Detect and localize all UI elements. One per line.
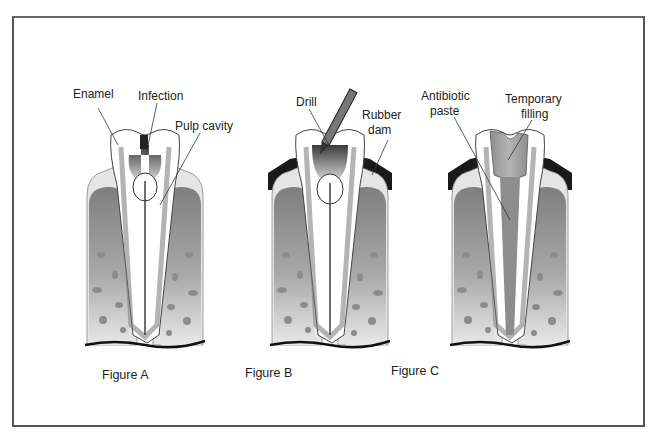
- label-paste: paste: [430, 104, 459, 118]
- figure-c-illustration: [448, 129, 572, 347]
- label-infection: Infection: [138, 89, 183, 103]
- label-temporary: Temporary: [505, 92, 562, 106]
- label-enamel: Enamel: [73, 87, 114, 101]
- caption-figure-a: Figure A: [102, 368, 149, 382]
- caption-figure-c: Figure C: [391, 364, 439, 378]
- label-antibiotic: Antibiotic: [421, 89, 470, 103]
- label-dam: dam: [368, 123, 391, 137]
- label-rubber: Rubber: [362, 108, 401, 122]
- label-drill: Drill: [296, 95, 317, 109]
- root-canal-illustration: [0, 0, 658, 440]
- label-filling: filling: [521, 107, 548, 121]
- figure-a-illustration: [85, 129, 205, 347]
- label-pulp-cavity: Pulp cavity: [175, 119, 233, 133]
- caption-figure-b: Figure B: [245, 366, 292, 380]
